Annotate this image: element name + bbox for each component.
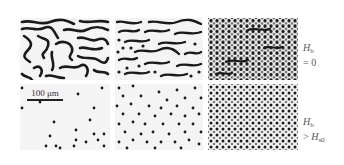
- scale-bar-line: [27, 99, 63, 101]
- row-label-zero-field: Hb = 0: [303, 42, 316, 68]
- row-label-above-collapse-field: Hb > Hs0: [303, 116, 325, 146]
- panel-bottom-right-bubble-lattice: [208, 84, 298, 150]
- label-greater-than: >: [303, 131, 311, 142]
- medium-bubble-pattern: [115, 84, 203, 150]
- label-equals-zero: = 0: [303, 57, 316, 68]
- domain-pattern-figure: 100 μm: [0, 0, 344, 165]
- label-h-sub: b: [310, 47, 314, 55]
- scale-bar-label: 100 μm: [27, 88, 63, 98]
- panel-top-left-labyrinth: [20, 18, 110, 80]
- panel-bottom-middle-medium-bubbles: [115, 84, 203, 150]
- labyrinth-pattern: [20, 18, 110, 80]
- dense-bubble-pattern: [208, 18, 298, 80]
- scale-bar: 100 μm: [27, 88, 63, 101]
- stripes-bubbles-pattern: [115, 18, 203, 80]
- panel-top-right-dense-bubbles: [208, 18, 298, 80]
- panel-top-middle-stripes: [115, 18, 203, 80]
- label-hs-sub: s0: [318, 136, 324, 144]
- bubble-lattice-pattern: [208, 84, 298, 150]
- label-h-sub: b: [310, 121, 314, 129]
